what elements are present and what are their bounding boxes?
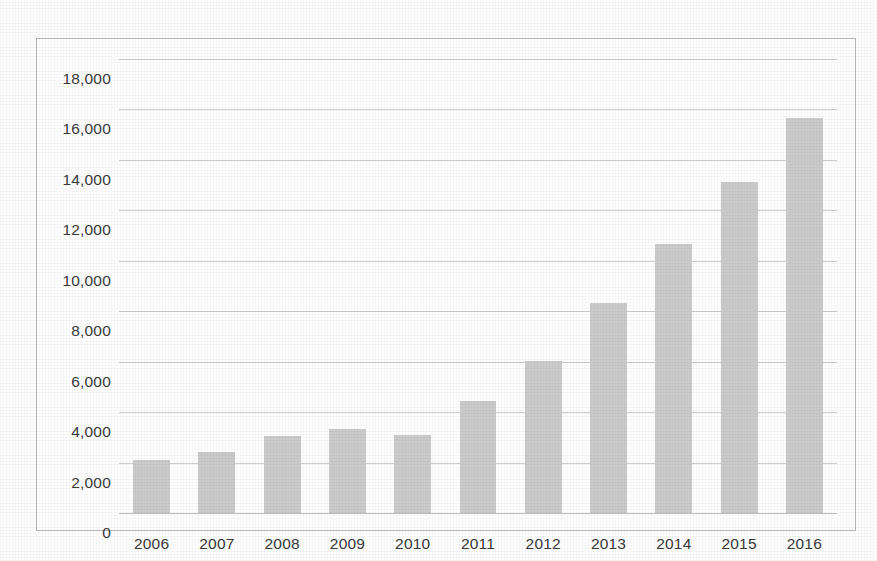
y-axis-tick-label: 12,000 <box>39 221 111 239</box>
bar-series <box>119 59 837 513</box>
bar-2012 <box>525 361 562 513</box>
x-axis-tick-label: 2016 <box>787 535 822 553</box>
gridline <box>119 513 837 514</box>
x-axis-tick-label: 2013 <box>591 535 626 553</box>
y-axis-tick-label: 18,000 <box>39 70 111 88</box>
y-axis: 02,0004,0006,0008,00010,00012,00014,0001… <box>37 59 111 513</box>
chart-frame: 02,0004,0006,0008,00010,00012,00014,0001… <box>36 38 856 531</box>
bar-2009 <box>329 429 366 513</box>
y-axis-tick-label: 16,000 <box>39 120 111 138</box>
bar-2011 <box>460 401 497 513</box>
x-axis-tick-label: 2006 <box>134 535 169 553</box>
x-axis-tick-label: 2011 <box>461 535 495 553</box>
bar-2014 <box>655 244 692 513</box>
y-axis-tick-label: 0 <box>39 524 111 542</box>
x-axis-tick-label: 2012 <box>526 535 561 553</box>
y-axis-tick-label: 10,000 <box>39 272 111 290</box>
bar-2008 <box>264 436 301 513</box>
bar-2016 <box>786 118 823 513</box>
bar-2010 <box>394 435 431 513</box>
x-axis-tick-label: 2007 <box>199 535 234 553</box>
bar-2013 <box>590 303 627 513</box>
x-axis-tick-label: 2014 <box>656 535 691 553</box>
x-axis-tick-label: 2008 <box>265 535 300 553</box>
y-axis-tick-label: 14,000 <box>39 171 111 189</box>
plot-area <box>119 59 837 513</box>
x-axis: 2006200720082009201020112012201320142015… <box>119 525 837 553</box>
bar-2006 <box>133 460 170 513</box>
y-axis-tick-label: 8,000 <box>39 322 111 340</box>
x-axis-tick-label: 2009 <box>330 535 365 553</box>
bar-2015 <box>721 182 758 513</box>
page-background: 02,0004,0006,0008,00010,00012,00014,0001… <box>0 0 877 561</box>
y-axis-tick-label: 6,000 <box>39 373 111 391</box>
y-axis-tick-label: 2,000 <box>39 474 111 492</box>
y-axis-tick-label: 4,000 <box>39 423 111 441</box>
bar-2007 <box>198 452 235 513</box>
x-axis-tick-label: 2015 <box>721 535 756 553</box>
x-axis-tick-label: 2010 <box>395 535 430 553</box>
